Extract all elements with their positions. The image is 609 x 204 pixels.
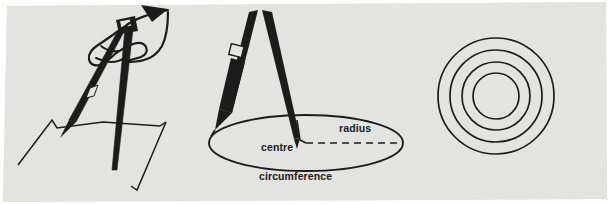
- label-radius: radius: [339, 123, 371, 134]
- figure-page: centre radius circumference: [0, 0, 609, 204]
- label-circumference: circumference: [259, 171, 332, 182]
- label-centre: centre: [261, 142, 293, 153]
- circle-compass-clamp-window: [229, 44, 244, 58]
